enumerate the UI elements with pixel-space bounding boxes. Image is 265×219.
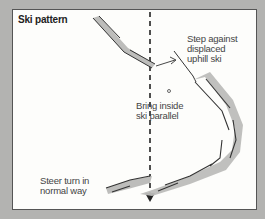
label-step-against: Step against displaced uphill ski (187, 34, 237, 64)
label-bring-inside: Bring inside ski parallel (136, 101, 183, 121)
ski-upper-left (93, 16, 155, 68)
turning-ski-band (140, 72, 243, 196)
pivot-dot (168, 90, 171, 93)
label-steer-turn: Steer turn in normal way (40, 176, 89, 196)
diagram-title: Ski pattern (18, 14, 67, 25)
